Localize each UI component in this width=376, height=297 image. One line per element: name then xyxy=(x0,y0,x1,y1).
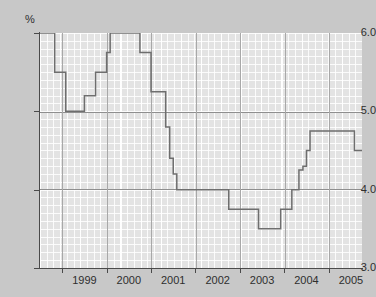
x-tick-label: 2000 xyxy=(106,274,152,286)
y-tick-label: 4.0 xyxy=(344,183,376,195)
x-tick-mark xyxy=(240,268,241,273)
x-tick-mark xyxy=(107,268,108,273)
y-axis-unit-label: % xyxy=(25,13,35,25)
x-tick-label: 2005 xyxy=(328,274,374,286)
x-tick-label: 1999 xyxy=(61,274,107,286)
x-axis-line xyxy=(39,268,363,269)
series-line-chart xyxy=(40,33,362,268)
y-tick-label: 3.0 xyxy=(344,261,376,273)
y-tick-mark xyxy=(34,190,40,191)
x-tick-label: 2001 xyxy=(150,274,196,286)
y-tick-mark xyxy=(34,268,40,269)
x-tick-mark xyxy=(62,268,63,273)
x-tick-mark xyxy=(329,268,330,273)
y-tick-mark xyxy=(34,33,40,34)
y-axis-line xyxy=(39,32,40,269)
chart-container: % 6.05.04.03.0 1999200020012002200320042… xyxy=(0,0,376,297)
x-tick-label: 2002 xyxy=(195,274,241,286)
y-tick-mark xyxy=(34,111,40,112)
interest-rate-line xyxy=(40,33,362,229)
x-tick-mark xyxy=(151,268,152,273)
y-tick-label: 5.0 xyxy=(344,104,376,116)
x-tick-label: 2004 xyxy=(283,274,329,286)
x-tick-mark xyxy=(195,268,196,273)
plot-area xyxy=(40,33,362,268)
x-tick-label: 2003 xyxy=(239,274,285,286)
y-tick-label: 6.0 xyxy=(344,26,376,38)
x-tick-mark xyxy=(284,268,285,273)
